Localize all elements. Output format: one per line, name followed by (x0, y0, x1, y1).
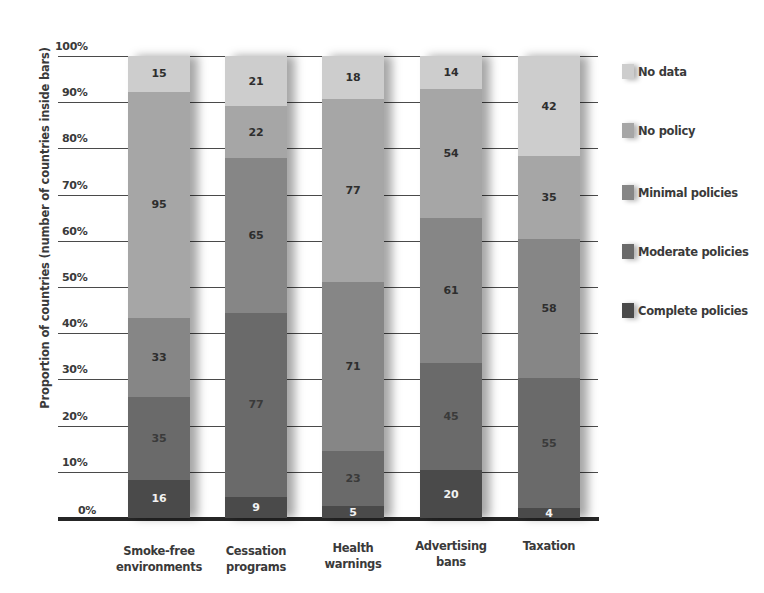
segment-value: 9 (252, 501, 259, 514)
segment-value: 5 (349, 506, 356, 519)
segment-value: 20 (444, 488, 459, 501)
segment-value: 14 (444, 66, 459, 79)
segment-no-policy: 54 (420, 89, 482, 218)
legend-swatch (622, 244, 634, 259)
segment-value: 35 (542, 191, 557, 204)
x-tick-label: Taxation (494, 538, 604, 554)
segment-value: 35 (152, 432, 167, 445)
legend-label: No policy (638, 124, 695, 138)
x-tick-label: Smoke-freeenvironments (104, 543, 214, 575)
y-tick-label: 20% (62, 410, 104, 423)
segment-complete-policies: 9 (225, 497, 287, 518)
segment-complete-policies: 5 (322, 506, 384, 518)
segment-no-data: 18 (322, 56, 384, 99)
segment-value: 22 (249, 126, 264, 139)
segment-complete-policies: 20 (420, 470, 482, 518)
segment-complete-policies: 4 (518, 508, 580, 518)
segment-no-policy: 95 (128, 92, 190, 318)
segment-value: 77 (249, 398, 264, 411)
segment-value: 23 (346, 472, 361, 485)
segment-moderate-policies: 35 (128, 397, 190, 480)
legend-label: Complete policies (638, 304, 748, 318)
legend-item-no-data: No data (622, 64, 687, 79)
bar-smoke-free-environments: 1635339515 (128, 56, 190, 518)
segment-moderate-policies: 77 (225, 313, 287, 496)
segment-value: 18 (346, 71, 361, 84)
segment-moderate-policies: 55 (518, 378, 580, 509)
legend-swatch (622, 64, 634, 79)
legend-item-complete-policies: Complete policies (622, 303, 748, 318)
segment-minimal-policies: 58 (518, 239, 580, 377)
segment-minimal-policies: 71 (322, 282, 384, 451)
segment-value: 55 (542, 437, 557, 450)
segment-no-policy: 35 (518, 156, 580, 239)
y-tick-label: 30% (62, 363, 104, 376)
segment-moderate-policies: 23 (322, 451, 384, 506)
segment-value: 45 (444, 410, 459, 423)
x-tick-label-line: bans (396, 554, 506, 570)
y-axis-label: Proportion of countries (number of count… (38, 47, 52, 409)
x-tick-label-line: Advertising (396, 538, 506, 554)
segment-value: 61 (444, 284, 459, 297)
legend-item-minimal-policies: Minimal policies (622, 185, 738, 200)
bar-health-warnings: 523717718 (322, 56, 384, 518)
segment-value: 95 (152, 198, 167, 211)
segment-value: 71 (346, 360, 361, 373)
bar-cessation-programs: 977652221 (225, 56, 287, 518)
segment-value: 21 (249, 75, 264, 88)
x-tick-label-line: Cessation (201, 543, 311, 559)
y-tick-label: 10% (62, 456, 104, 469)
segment-value: 77 (346, 184, 361, 197)
segment-minimal-policies: 65 (225, 158, 287, 313)
y-tick-label: 60% (62, 225, 104, 238)
segment-no-policy: 77 (322, 99, 384, 282)
segment-no-policy: 22 (225, 106, 287, 158)
y-tick-label: 40% (62, 317, 104, 330)
y-tick-label: 80% (62, 132, 104, 145)
segment-no-data: 14 (420, 56, 482, 89)
segment-no-data: 42 (518, 56, 580, 156)
stacked-bar-chart: Proportion of countries (number of count… (0, 0, 764, 593)
y-tick-label: 50% (62, 271, 104, 284)
x-tick-label-line: programs (201, 559, 311, 575)
segment-value: 33 (152, 351, 167, 364)
legend-swatch (622, 303, 634, 318)
segment-value: 42 (542, 100, 557, 113)
segment-minimal-policies: 33 (128, 318, 190, 397)
x-tick-label-line: environments (104, 559, 214, 575)
bar-advertising-bans: 2045615414 (420, 56, 482, 518)
segment-no-data: 15 (128, 56, 190, 92)
legend-label: Moderate policies (638, 245, 748, 259)
segment-value: 15 (152, 67, 167, 80)
y-tick-label: 0% (78, 504, 120, 517)
legend-item-moderate-policies: Moderate policies (622, 244, 748, 259)
legend-swatch (622, 185, 634, 200)
x-tick-label-line: Health (298, 540, 408, 556)
y-tick-label: 90% (62, 86, 104, 99)
segment-value: 54 (444, 147, 459, 160)
y-tick-label: 100% (55, 40, 97, 53)
segment-minimal-policies: 61 (420, 218, 482, 363)
legend-swatch (622, 123, 634, 138)
x-tick-label: Healthwarnings (298, 540, 408, 572)
bar-taxation: 455583542 (518, 56, 580, 518)
x-tick-label-line: warnings (298, 556, 408, 572)
legend-item-no-policy: No policy (622, 123, 695, 138)
x-tick-label-line: Smoke-free (104, 543, 214, 559)
segment-complete-policies: 16 (128, 480, 190, 518)
legend-label: Minimal policies (638, 186, 738, 200)
x-tick-label-line: Taxation (494, 538, 604, 554)
segment-no-data: 21 (225, 56, 287, 106)
segment-moderate-policies: 45 (420, 363, 482, 470)
segment-value: 16 (152, 492, 167, 505)
segment-value: 4 (545, 507, 552, 520)
legend-label: No data (638, 65, 687, 79)
x-tick-label: Advertisingbans (396, 538, 506, 570)
y-tick-label: 70% (62, 179, 104, 192)
segment-value: 58 (542, 302, 557, 315)
x-tick-label: Cessationprograms (201, 543, 311, 575)
segment-value: 65 (249, 229, 264, 242)
